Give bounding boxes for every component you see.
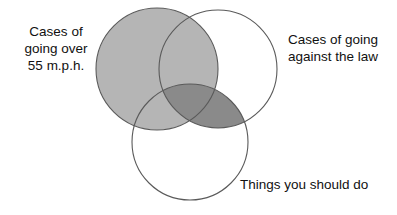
venn-label-speeding: Cases of going over 55 m.p.h. <box>10 23 102 74</box>
venn-label-should-do: Things you should do <box>240 176 368 193</box>
venn-label-illegal: Cases of going against the law <box>288 31 378 65</box>
venn-diagram-page: Cases of going over 55 m.p.h. Cases of g… <box>0 0 397 215</box>
